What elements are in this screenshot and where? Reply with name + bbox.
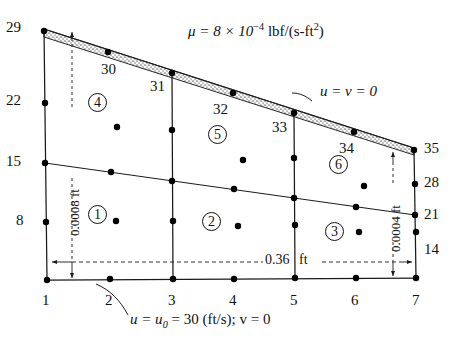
wall-boundary-condition: u = v = 0 <box>320 84 377 99</box>
node-label-8: 8 <box>16 213 24 228</box>
node-label-30: 30 <box>101 62 116 77</box>
node-label-35: 35 <box>424 141 439 156</box>
element-label-5: 5 <box>208 125 227 144</box>
node-label-22: 22 <box>6 93 21 108</box>
element-label-3: 3 <box>325 222 344 241</box>
inlet-bc-rest: = 30 (ft/s); v = 0 <box>168 311 271 327</box>
element-label-1: 1 <box>88 205 107 224</box>
node-label-5: 5 <box>290 293 298 308</box>
mesh-nodes <box>41 28 419 283</box>
node-label-4: 4 <box>229 293 237 308</box>
finite-element-mesh-figure: 29 22 15 8 1 2 3 4 5 6 7 35 28 21 14 30 … <box>0 0 463 340</box>
node-label-2: 2 <box>105 293 113 308</box>
viscosity-annotation: μ = 8 × 10−4 lbf/(s-ft2) <box>188 22 324 39</box>
node-label-6: 6 <box>351 293 359 308</box>
right-height-dimension-label: 0.0004 ft <box>389 205 402 252</box>
width-dimension-value: 0.36 <box>265 253 290 267</box>
viscosity-symbol-text: μ = 8 × 10 <box>188 23 253 39</box>
node-label-34: 34 <box>339 141 354 156</box>
mesh-drawing <box>0 0 463 340</box>
node-label-1: 1 <box>42 293 50 308</box>
domain-outline <box>44 29 416 280</box>
inlet-bc-prefix: u = u <box>130 311 163 327</box>
width-dimension-units: ft <box>299 253 308 267</box>
viscosity-exponent: −4 <box>253 21 264 32</box>
node-label-3: 3 <box>168 293 176 308</box>
viscosity-units-close: ) <box>319 23 324 39</box>
left-height-dimension-label: 0.0008 ft <box>68 189 81 236</box>
element-label-2: 2 <box>202 212 221 231</box>
node-label-32: 32 <box>213 102 228 117</box>
node-label-14: 14 <box>424 242 439 257</box>
node-label-33: 33 <box>272 120 287 135</box>
node-label-31: 31 <box>150 79 165 94</box>
node-label-15: 15 <box>6 154 21 169</box>
node-label-7: 7 <box>412 293 420 308</box>
node-label-21: 21 <box>424 207 439 222</box>
element-label-6: 6 <box>329 155 348 174</box>
element-label-4: 4 <box>88 93 107 112</box>
node-label-28: 28 <box>424 175 439 190</box>
inlet-boundary-condition: u = u0 = 30 (ft/s); v = 0 <box>130 312 270 330</box>
viscosity-units-a: lbf/(s-ft <box>264 23 314 39</box>
node-label-29: 29 <box>6 20 21 35</box>
wall-bc-leader <box>292 93 312 101</box>
